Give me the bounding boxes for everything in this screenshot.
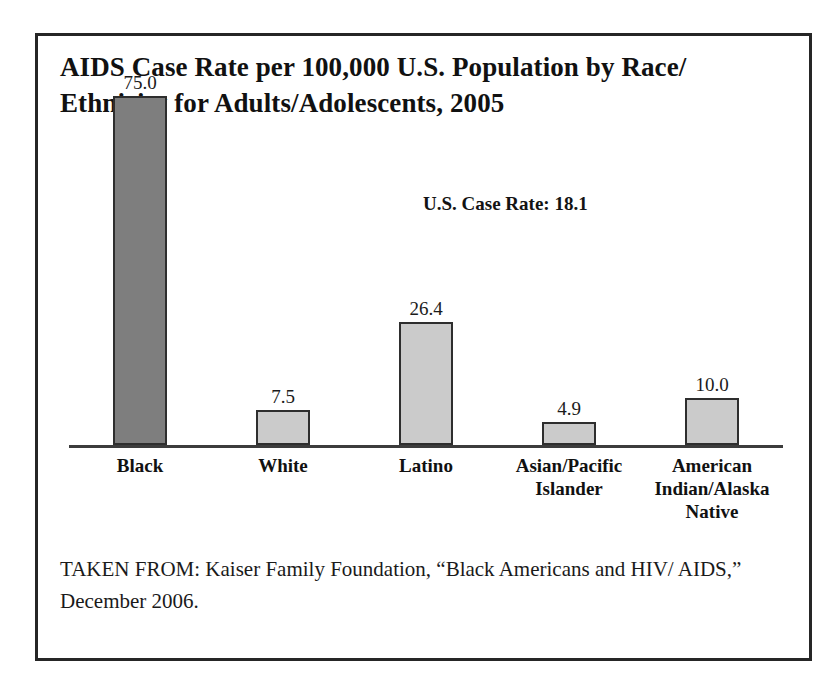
bar-asian-pacific-islander: 4.9 bbox=[542, 422, 596, 445]
source-note-line-1: TAKEN FROM: Kaiser Family Foundation, “B… bbox=[60, 557, 674, 581]
bar-latino: 26.4 bbox=[399, 322, 453, 445]
x-label-latino-line-1: Latino bbox=[351, 455, 501, 478]
x-label-asian-pacific-islander: Asian/Pacific Islander bbox=[494, 455, 644, 501]
x-label-american-indian-alaska-native-line-1: American bbox=[637, 455, 787, 478]
bar-american-indian-alaska-native: 10.0 bbox=[685, 398, 739, 445]
chart-frame: AIDS Case Rate per 100,000 U.S. Populati… bbox=[35, 33, 812, 661]
x-label-american-indian-alaska-native: American Indian/Alaska Native bbox=[637, 455, 787, 523]
bar-black: 75.0 bbox=[113, 96, 167, 445]
x-axis-baseline bbox=[69, 445, 783, 448]
bar-slot-black: 75.0 bbox=[69, 96, 211, 445]
bar-value-black: 75.0 bbox=[123, 72, 156, 94]
bar-slot-white: 7.5 bbox=[212, 96, 354, 445]
x-label-black: Black bbox=[65, 455, 215, 478]
bar-white: 7.5 bbox=[256, 410, 310, 445]
bar-slot-latino: 26.4 bbox=[355, 96, 497, 445]
x-label-american-indian-alaska-native-line-2: Indian/Alaska bbox=[637, 478, 787, 501]
bar-value-asian-pacific-islander: 4.9 bbox=[557, 398, 581, 420]
x-label-black-line-1: Black bbox=[65, 455, 215, 478]
x-label-white: White bbox=[208, 455, 358, 478]
x-label-latino: Latino bbox=[351, 455, 501, 478]
x-label-american-indian-alaska-native-line-3: Native bbox=[637, 501, 787, 524]
bar-series: 75.0 7.5 26.4 4.9 bbox=[69, 96, 783, 448]
source-note: TAKEN FROM: Kaiser Family Foundation, “B… bbox=[60, 554, 775, 617]
bar-slot-american-indian-alaska-native: 10.0 bbox=[641, 96, 783, 445]
bar-value-latino: 26.4 bbox=[409, 298, 442, 320]
x-label-white-line-1: White bbox=[208, 455, 358, 478]
bar-value-white: 7.5 bbox=[271, 386, 295, 408]
x-label-asian-pacific-islander-line-2: Islander bbox=[494, 478, 644, 501]
figure-root: AIDS Case Rate per 100,000 U.S. Populati… bbox=[0, 0, 840, 694]
bar-value-american-indian-alaska-native: 10.0 bbox=[695, 374, 728, 396]
x-label-asian-pacific-islander-line-1: Asian/Pacific bbox=[494, 455, 644, 478]
x-axis-tick-labels: Black White Latino Asian/Pacific Islande… bbox=[69, 455, 783, 565]
bar-slot-asian-pacific-islander: 4.9 bbox=[498, 96, 640, 445]
